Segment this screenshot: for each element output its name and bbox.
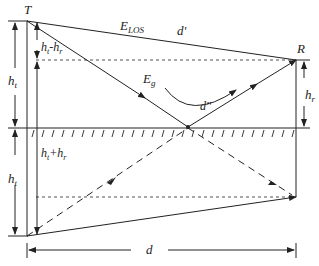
horizontal-distance-label: d <box>146 242 153 257</box>
reflection-point <box>186 125 190 129</box>
ground-surface <box>8 128 310 137</box>
transmitter-height-label: ht <box>8 73 18 90</box>
los-distance-label: d' <box>177 23 187 38</box>
los-ray <box>27 21 296 60</box>
image-los-ray <box>27 197 296 236</box>
reflected-ray <box>27 21 296 127</box>
image-ray-arrow-down <box>268 181 277 185</box>
los-field-label: ELOS <box>119 18 144 35</box>
distance-dimension <box>27 243 296 258</box>
transmitter-label: T <box>24 2 32 17</box>
image-rays <box>27 128 292 236</box>
two-ray-diagram: T R ELOS d' Eg d'' ht ht ht-hr ht+hr hr … <box>0 0 319 266</box>
image-height-label: ht <box>8 171 18 188</box>
receiver-height-label: hr <box>305 87 316 104</box>
reflected-distance-label: d'' <box>200 99 212 113</box>
height-sum-label: ht+hr <box>41 146 67 162</box>
ground-field-label: Eg <box>142 71 156 88</box>
receiver-label: R <box>296 41 305 56</box>
